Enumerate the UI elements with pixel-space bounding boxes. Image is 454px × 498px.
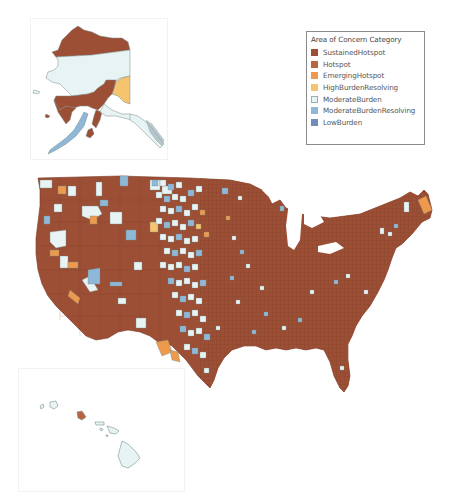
legend-item-low-burden[interactable]: LowBurden <box>311 117 420 129</box>
legend-item-hotspot[interactable]: Hotspot <box>311 59 420 71</box>
legend-item-emerging-hotspot[interactable]: EmergingHotspot <box>311 70 420 82</box>
legend-swatch <box>311 96 318 103</box>
legend-item-high-burden-resolving[interactable]: HighBurdenResolving <box>311 82 420 94</box>
hawaii-inset[interactable] <box>40 401 140 468</box>
legend-swatch <box>311 72 318 79</box>
alaska-inset[interactable] <box>33 26 164 154</box>
legend-swatch <box>311 84 318 91</box>
legend-swatch <box>311 61 318 68</box>
legend: Area of Concern Category SustainedHotspo… <box>306 31 425 145</box>
legend-item-sustained-hotspot[interactable]: SustainedHotspot <box>311 47 420 59</box>
legend-swatch <box>311 107 318 114</box>
legend-swatch <box>311 49 318 56</box>
legend-item-moderate-burden-resolving[interactable]: ModerateBurdenResolving <box>311 105 420 117</box>
legend-item-moderate-burden[interactable]: ModerateBurden <box>311 93 420 105</box>
legend-title: Area of Concern Category <box>311 35 420 44</box>
legend-swatch <box>311 119 318 126</box>
